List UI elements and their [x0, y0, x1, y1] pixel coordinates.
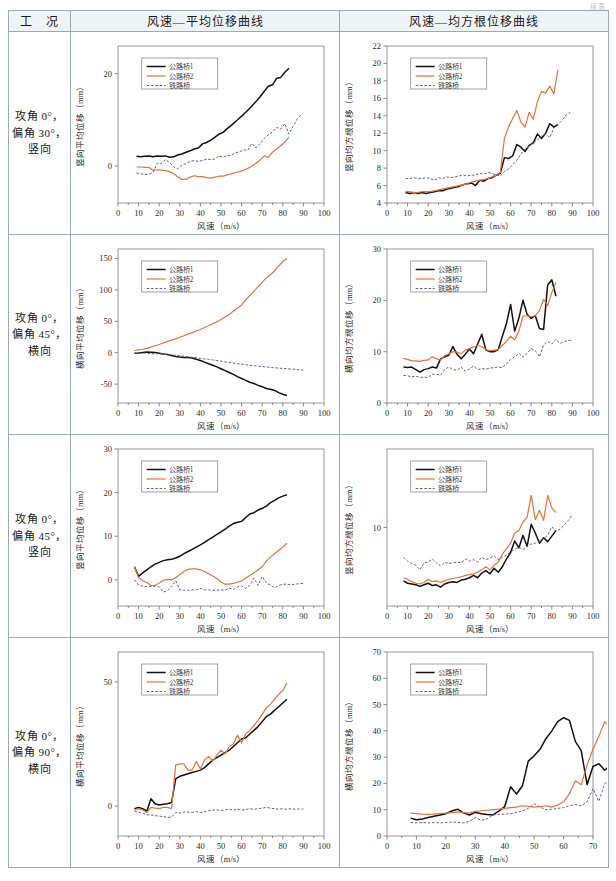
- svg-text:100: 100: [587, 208, 600, 218]
- svg-text:100: 100: [99, 284, 112, 294]
- legend-label-1: 公路桥1: [438, 668, 463, 677]
- legend-label-2: 公路桥2: [438, 677, 463, 686]
- x-axis: 0102030405060708090100: [116, 836, 331, 851]
- y-axis: 0102030: [373, 244, 388, 408]
- condition-cell-1: 攻角 0°，偏角 30°，竖向: [9, 32, 71, 235]
- svg-text:100: 100: [318, 208, 331, 218]
- chart-legend: 公路桥1公路桥2铁路桥: [411, 58, 487, 90]
- svg-text:0: 0: [385, 408, 389, 418]
- legend-label-3: 铁路桥: [169, 687, 190, 696]
- legend-label-2: 公路桥2: [438, 274, 463, 283]
- svg-text:0: 0: [108, 347, 112, 357]
- svg-text:30: 30: [176, 208, 185, 218]
- svg-text:80: 80: [279, 611, 288, 621]
- series-line-2: [411, 704, 607, 814]
- svg-text:70: 70: [258, 611, 267, 621]
- series-line-1: [134, 699, 286, 811]
- svg-text:10: 10: [403, 408, 412, 418]
- svg-text:22: 22: [373, 41, 382, 51]
- svg-text:18: 18: [373, 75, 382, 85]
- svg-text:90: 90: [299, 408, 308, 418]
- svg-text:80: 80: [279, 208, 288, 218]
- condition-cell-3: 攻角 0°，偏角 45°，竖向: [9, 435, 71, 638]
- header-rms-displacement: 风速—均方根位移曲线: [340, 11, 609, 32]
- svg-text:30: 30: [176, 408, 185, 418]
- condition-label: 攻角 0°，偏角 45°，竖向: [9, 511, 70, 561]
- svg-text:0: 0: [116, 208, 120, 218]
- svg-text:60: 60: [237, 611, 246, 621]
- x-axis-label: 风速（m/s）: [197, 421, 245, 431]
- condition-line: 竖向: [9, 141, 70, 158]
- chart-legend: 公路桥1公路桥2铁路桥: [411, 664, 487, 696]
- chart-cell-1: 0102030405060708090100020风速（m/s）竖向平均位移（m…: [71, 32, 340, 235]
- chart-c4: 01020304050607080901000102030风速（m/s）横向均方…: [341, 237, 607, 433]
- svg-text:10: 10: [403, 611, 412, 621]
- svg-text:60: 60: [559, 841, 568, 851]
- svg-text:20: 20: [104, 487, 113, 497]
- condition-line: 攻角 0°，: [9, 511, 70, 528]
- y-axis: 10: [373, 522, 388, 532]
- x-axis: 0102030405060708090100: [116, 606, 331, 621]
- y-axis-label: 竖向均方根位移（mm）: [344, 480, 354, 574]
- svg-text:4: 4: [377, 198, 382, 208]
- series-line-3: [406, 112, 571, 180]
- series-line-1: [411, 704, 607, 819]
- legend-label-1: 公路桥1: [438, 465, 463, 474]
- y-axis-label: 竖向均方根位移（mm）: [344, 77, 354, 171]
- svg-text:60: 60: [506, 208, 514, 218]
- y-axis: 050: [104, 676, 119, 810]
- svg-text:50: 50: [373, 699, 382, 709]
- svg-text:90: 90: [299, 611, 308, 621]
- svg-text:90: 90: [299, 208, 308, 218]
- svg-text:10: 10: [412, 841, 421, 851]
- svg-text:20: 20: [373, 58, 382, 68]
- condition-cell-2: 攻角 0°，偏角 45°，横向: [9, 235, 71, 435]
- svg-text:100: 100: [318, 408, 331, 418]
- svg-text:20: 20: [104, 68, 113, 78]
- svg-text:70: 70: [527, 408, 536, 418]
- svg-text:30: 30: [445, 408, 454, 418]
- legend-label-3: 铁路桥: [438, 81, 459, 90]
- svg-text:100: 100: [587, 611, 600, 621]
- svg-text:30: 30: [445, 611, 454, 621]
- svg-text:70: 70: [258, 408, 267, 418]
- chart-cell-3: 0102030405060708090100-50050100150风速（m/s…: [71, 235, 340, 435]
- table-row: 攻角 0°，偏角 45°，竖向0102030405060708090100010…: [9, 435, 609, 638]
- svg-text:10: 10: [134, 841, 143, 851]
- svg-text:70: 70: [527, 611, 536, 621]
- svg-text:60: 60: [237, 841, 246, 851]
- svg-text:80: 80: [548, 408, 557, 418]
- svg-text:14: 14: [373, 110, 382, 120]
- legend-label-2: 公路桥2: [438, 474, 463, 483]
- condition-line: 偏角 30°，: [9, 125, 70, 142]
- svg-text:0: 0: [116, 611, 120, 621]
- svg-text:60: 60: [373, 673, 382, 683]
- svg-text:20: 20: [424, 611, 433, 621]
- svg-text:90: 90: [568, 208, 577, 218]
- chart-cell-8: 010203040506070010203040506070风速（m/s）横向均…: [340, 638, 609, 868]
- x-axis: 0102030405060708090100: [385, 403, 600, 418]
- legend-label-1: 公路桥1: [438, 265, 463, 274]
- x-axis-label: 风速（m/s）: [197, 221, 245, 231]
- chart-c3: 0102030405060708090100-50050100150风速（m/s…: [72, 237, 338, 433]
- series-line-3: [134, 576, 303, 592]
- svg-text:0: 0: [385, 841, 389, 851]
- chart-c2: 010203040506070809010046810121416182022风…: [341, 34, 607, 233]
- y-axis-label: 竖向平均位移（mm）: [75, 81, 85, 166]
- condition-label: 攻角 0°，偏角 45°，横向: [9, 310, 70, 360]
- svg-text:20: 20: [373, 295, 382, 305]
- svg-text:60: 60: [506, 611, 514, 621]
- condition-line: 偏角 90°，: [9, 744, 70, 761]
- svg-text:30: 30: [176, 611, 185, 621]
- svg-text:10: 10: [134, 611, 143, 621]
- svg-text:20: 20: [424, 408, 433, 418]
- svg-text:0: 0: [385, 611, 389, 621]
- svg-text:10: 10: [373, 346, 382, 356]
- legend-label-2: 公路桥2: [169, 274, 194, 283]
- svg-text:0: 0: [116, 841, 120, 851]
- svg-text:30: 30: [471, 841, 480, 851]
- x-axis-label: 风速（m/s）: [466, 221, 514, 231]
- svg-text:6: 6: [377, 180, 381, 190]
- svg-text:60: 60: [237, 408, 246, 418]
- table-row: 攻角 0°，偏角 90°，横向0102030405060708090100050…: [9, 638, 609, 868]
